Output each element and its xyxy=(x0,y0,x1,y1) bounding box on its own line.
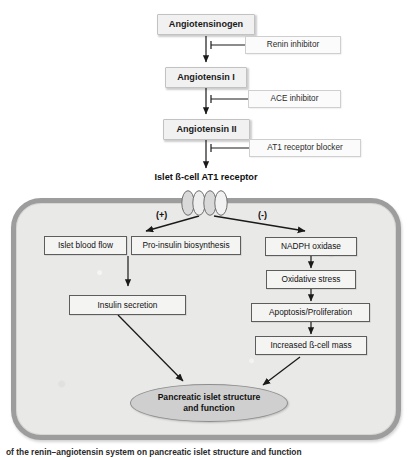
node-pancreatic-islet-outcome[interactable]: Pancreatic islet structure and function xyxy=(130,384,288,422)
arrow-bcell-mass-to-outcome xyxy=(263,357,300,385)
node-increased-bcell-mass-label: Increased ß-cell mass xyxy=(270,341,351,350)
node-renin-inhibitor-label: Renin inhibitor xyxy=(267,41,319,50)
node-increased-bcell-mass[interactable]: Increased ß-cell mass xyxy=(255,336,367,355)
node-islet-blood-flow[interactable]: Islet blood flow xyxy=(44,236,127,255)
figure-caption: of the renin–angiotensin system on pancr… xyxy=(6,447,406,457)
node-nadph-oxidase[interactable]: NADPH oxidase xyxy=(265,237,357,256)
positive-branch-sign: (+) xyxy=(156,210,167,220)
node-ace-inhibitor[interactable]: ACE inhibitor xyxy=(248,90,341,108)
node-angiotensin-ii[interactable]: Angiotensin II xyxy=(163,119,250,140)
outcome-line-2: and function xyxy=(158,403,261,414)
arrow-insulin-secretion-to-outcome xyxy=(118,315,183,381)
node-oxidative-stress[interactable]: Oxidative stress xyxy=(266,270,356,289)
node-pro-insulin-biosynthesis[interactable]: Pro-insulin biosynthesis xyxy=(131,236,241,255)
node-nadph-oxidase-label: NADPH oxidase xyxy=(281,242,341,251)
negative-branch-sign: (-) xyxy=(258,210,267,220)
figure-canvas: Angiotensinogen Angiotensin I Angiotensi… xyxy=(0,0,412,457)
node-insulin-secretion[interactable]: Insulin secretion xyxy=(69,295,186,315)
node-angiotensinogen-label: Angiotensinogen xyxy=(169,20,243,30)
node-oxidative-stress-label: Oxidative stress xyxy=(281,275,340,284)
node-angiotensin-i[interactable]: Angiotensin I xyxy=(165,67,247,88)
node-at1-receptor-blocker-label: AT1 receptor blocker xyxy=(267,144,342,153)
node-renin-inhibitor[interactable]: Renin inhibitor xyxy=(245,36,341,54)
node-pro-insulin-biosynthesis-label: Pro-insulin biosynthesis xyxy=(142,241,229,250)
node-at1-receptor-blocker[interactable]: AT1 receptor blocker xyxy=(249,139,361,157)
node-angiotensin-i-label: Angiotensin I xyxy=(177,73,235,83)
node-islet-blood-flow-label: Islet blood flow xyxy=(58,241,113,250)
node-ace-inhibitor-label: ACE inhibitor xyxy=(271,95,319,104)
arrow-receptor-to-positive-branch xyxy=(146,216,199,231)
node-angiotensin-ii-label: Angiotensin II xyxy=(176,125,236,135)
node-apoptosis-proliferation-label: Apoptosis/Proliferation xyxy=(269,308,352,317)
gpcr-receptor-icon xyxy=(180,190,232,216)
node-angiotensinogen[interactable]: Angiotensinogen xyxy=(157,14,255,35)
node-insulin-secretion-label: Insulin secretion xyxy=(98,301,158,310)
outcome-line-1: Pancreatic islet structure xyxy=(158,392,261,403)
receptor-label: Islet ß-cell AT1 receptor xyxy=(0,172,412,182)
node-apoptosis-proliferation[interactable]: Apoptosis/Proliferation xyxy=(251,303,370,322)
